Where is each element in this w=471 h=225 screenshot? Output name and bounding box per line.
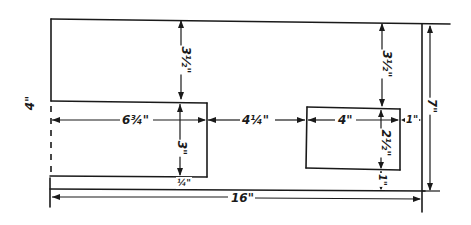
dim-line-overall-width-b (255, 198, 420, 199)
label-right-opening-width: 4" (337, 114, 354, 126)
left-opening-top (51, 101, 207, 103)
label-left-height: 4" (24, 95, 36, 112)
label-left-opening-height: 3" (176, 140, 188, 157)
right-opening-bottom (306, 168, 400, 170)
top-edge-line (51, 19, 450, 24)
label-top-to-left-opening: 3½" (180, 45, 192, 74)
dimension-drawing: 3½" 6¾" 3" ¼" 4¼" 4" 1" 3½" 2½" 1" 7" 4"… (0, 0, 471, 225)
label-right-margin: 1" (405, 114, 419, 126)
label-right-bottom-margin: 1" (376, 173, 388, 187)
label-overall-height: 7" (426, 98, 438, 115)
label-left-opening-width: 6¾" (121, 114, 150, 126)
label-left-bottom-margin: ¼" (176, 177, 192, 189)
right-opening-left (306, 107, 307, 168)
right-opening-top (307, 107, 400, 109)
label-top-to-right-opening: 3½" (381, 49, 393, 78)
label-gap-between-openings: 4¼" (241, 114, 270, 126)
label-overall-width: 16" (230, 192, 255, 204)
label-right-opening-height: 2½" (380, 128, 392, 157)
